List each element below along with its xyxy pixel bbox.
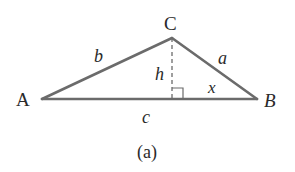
vertex-b-label: B	[264, 90, 276, 111]
vertex-a-label: A	[16, 89, 30, 110]
triangle-figure: A B C b a c h x (a)	[0, 0, 295, 172]
vertex-c-label: C	[164, 13, 177, 34]
altitude-h-label: h	[155, 64, 164, 84]
triangle-diagram: A B C b a c h x (a)	[0, 0, 295, 172]
right-angle-marker	[172, 88, 183, 99]
side-b-label: b	[94, 46, 103, 66]
figure-caption: (a)	[137, 142, 157, 163]
side-b-line	[42, 38, 172, 99]
side-a-label: a	[218, 48, 227, 68]
segment-x-label: x	[207, 78, 216, 97]
side-c-label: c	[142, 107, 150, 127]
